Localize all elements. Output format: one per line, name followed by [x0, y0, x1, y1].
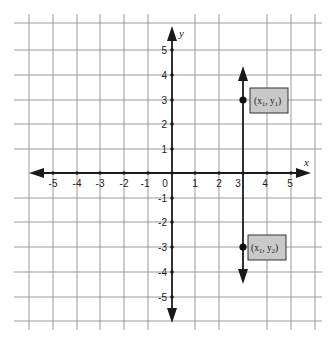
x-axis-left-arrow-icon: [29, 168, 44, 178]
y-axis-label: y: [178, 27, 184, 39]
origin-label: 0: [162, 178, 168, 189]
x-tick-label: -2: [120, 178, 129, 189]
point-label: (x1, y1): [254, 96, 281, 107]
y-tick-label: -1: [158, 193, 167, 204]
point-label: (x1, y2): [251, 243, 278, 254]
x-axis: x -5 -4 -3 -2 -1 0 1 2 3 4 5: [29, 156, 311, 189]
y-axis-up-arrow-icon: [167, 26, 177, 41]
y-tick-label: 5: [161, 45, 167, 56]
y-tick-label: -4: [158, 267, 167, 278]
x-tick-label: -4: [73, 178, 82, 189]
y-tick-label: 1: [161, 144, 167, 155]
x-axis-label: x: [303, 156, 309, 168]
y-tick-label: -5: [158, 292, 167, 303]
line-down-arrow-icon: [238, 269, 248, 284]
x-tick-label: 4: [262, 178, 268, 189]
x-axis-right-arrow-icon: [296, 168, 311, 178]
y-tick-label: -3: [158, 242, 167, 253]
y-tick-label: 2: [161, 119, 167, 130]
grid: [14, 14, 322, 330]
coordinate-plane: x -5 -4 -3 -2 -1 0 1 2 3 4 5 y 5 4 3 2 1…: [0, 0, 330, 339]
x-tick-label: 1: [192, 178, 198, 189]
x-tick-label: 2: [216, 178, 222, 189]
x-tick-label: 3: [235, 178, 241, 189]
point-x1-y2: (x1, y2): [239, 235, 286, 260]
x-tick-label: -5: [49, 178, 58, 189]
y-tick-label: 3: [161, 95, 167, 106]
y-tick-label: -2: [158, 217, 167, 228]
y-tick-label: 4: [161, 70, 167, 81]
x-tick-label: -1: [141, 178, 150, 189]
line-up-arrow-icon: [238, 66, 248, 81]
x-tick-label: -3: [96, 178, 105, 189]
x-tick-label: 5: [287, 178, 293, 189]
